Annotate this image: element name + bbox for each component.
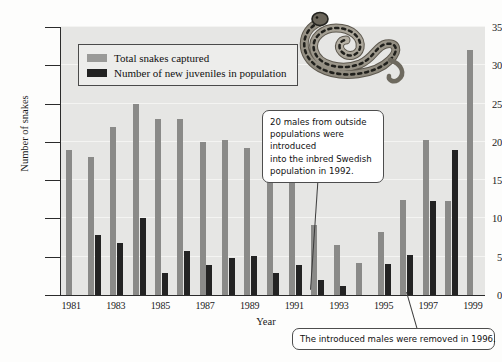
- x-axis-title: Year: [0, 316, 502, 327]
- x-tick-label-1981: 1981: [62, 300, 81, 311]
- x-tick-label-1987: 1987: [195, 300, 214, 311]
- y-tick-10: [45, 218, 60, 219]
- x-tick-label-1995: 1995: [374, 300, 393, 311]
- chart-legend: Total snakes captured Number of new juve…: [78, 44, 298, 86]
- y-tick-25: [45, 104, 60, 105]
- bar-total-1990: [267, 165, 273, 295]
- bar-juvenile-1984: [140, 218, 146, 295]
- bar-juvenile-1992: [318, 280, 324, 295]
- bar-total-1989: [244, 148, 250, 295]
- bar-juvenile-1991: [296, 265, 302, 295]
- bar-total-1982: [88, 157, 94, 295]
- legend-label-juvenile: Number of new juveniles in population: [114, 67, 287, 79]
- bar-juvenile-1993: [340, 286, 346, 295]
- callout-introduced-line-3: into the inbred Swedish: [270, 153, 376, 165]
- callout-introduced-line-1: 20 males from outside: [270, 116, 376, 128]
- gridline-35: [61, 26, 485, 27]
- gridline-5: [61, 256, 485, 257]
- x-tick-label-1985: 1985: [151, 300, 170, 311]
- y-axis-title: Number of snakes: [19, 64, 30, 204]
- bar-total-1986: [177, 119, 183, 295]
- legend-swatch-total-icon: [87, 54, 107, 62]
- x-tick-label-1999: 1999: [463, 300, 482, 311]
- y-tick-5: [45, 257, 60, 258]
- legend-item-juvenile: Number of new juveniles in population: [87, 65, 287, 80]
- bar-total-1987: [200, 142, 206, 295]
- bar-total-1999: [467, 50, 473, 295]
- bar-juvenile-1982: [95, 235, 101, 295]
- bar-juvenile-1990: [273, 273, 279, 295]
- y-tick-20: [45, 142, 60, 143]
- callout-introduced-line-2: populations were introduced: [270, 128, 376, 152]
- y-tick-15: [45, 180, 60, 181]
- bar-juvenile-1996: [407, 255, 413, 295]
- bar-total-1981: [66, 150, 72, 295]
- y-tick-0: [45, 295, 60, 296]
- bar-juvenile-1983: [117, 243, 123, 295]
- y-tick-35: [45, 27, 60, 28]
- bar-total-1993: [334, 245, 340, 295]
- bar-total-1997: [423, 140, 429, 295]
- bar-total-1996: [400, 200, 406, 295]
- chart-figure: Number of snakes 05101520253035 19811983…: [0, 0, 502, 362]
- bar-total-1995: [378, 232, 384, 295]
- bar-total-1983: [110, 127, 116, 295]
- legend-swatch-juvenile-icon: [87, 69, 107, 77]
- bar-total-1984: [133, 104, 139, 295]
- x-tick-label-1989: 1989: [240, 300, 259, 311]
- bar-juvenile-1995: [385, 264, 391, 295]
- gridline-25: [61, 103, 485, 104]
- callout-males-removed: The introduced males were removed in 199…: [292, 328, 495, 350]
- bar-total-1994: [356, 263, 362, 295]
- bar-total-1988: [222, 140, 228, 295]
- x-tick-label-1991: 1991: [285, 300, 304, 311]
- x-tick-label-1993: 1993: [329, 300, 348, 311]
- bar-total-1998: [445, 201, 451, 295]
- bar-juvenile-1997: [430, 201, 436, 295]
- callout-males-introduced: 20 males from outside populations were i…: [262, 110, 384, 183]
- bar-juvenile-1987: [206, 265, 212, 295]
- legend-label-total: Total snakes captured: [114, 52, 209, 64]
- x-tick-label-1983: 1983: [106, 300, 125, 311]
- x-tick-label-1997: 1997: [419, 300, 438, 311]
- bar-total-1991: [289, 180, 295, 295]
- y-tick-30: [45, 65, 60, 66]
- bar-total-1985: [155, 119, 161, 295]
- gridline-10: [61, 217, 485, 218]
- bar-juvenile-1988: [229, 258, 235, 295]
- bar-juvenile-1989: [251, 256, 257, 295]
- bar-juvenile-1986: [184, 251, 190, 295]
- legend-item-total: Total snakes captured: [87, 50, 287, 65]
- bar-juvenile-1985: [162, 273, 168, 295]
- callout-introduced-line-4: population in 1992.: [270, 165, 376, 177]
- bar-juvenile-1998: [452, 150, 458, 295]
